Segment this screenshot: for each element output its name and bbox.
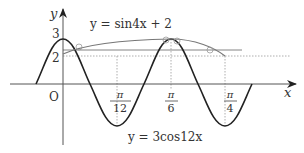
cosine-curve-label: y = 3cos12x bbox=[127, 130, 202, 144]
sine-curve bbox=[63, 39, 225, 56]
svg-text:4: 4 bbox=[227, 102, 234, 115]
x-tick-pi-6: π 6 bbox=[165, 89, 178, 115]
svg-text:π: π bbox=[167, 89, 175, 100]
origin-label: O bbox=[49, 90, 59, 104]
y-tick-2: 2 bbox=[52, 51, 60, 65]
svg-text:6: 6 bbox=[168, 102, 175, 115]
x-tick-pi-12: π 12 bbox=[110, 89, 131, 115]
x-axis-label: x bbox=[284, 85, 292, 100]
dotted-guides bbox=[63, 39, 290, 126]
y-axis-label: y bbox=[49, 6, 58, 21]
svg-text:π: π bbox=[226, 89, 234, 100]
y-tick-3: 3 bbox=[52, 27, 60, 41]
function-graph: y x O 3 2 π 12 π 6 π 4 y = sin4x + 2 y =… bbox=[0, 0, 304, 153]
svg-text:12: 12 bbox=[113, 102, 127, 115]
x-tick-pi-4: π 4 bbox=[224, 89, 237, 115]
svg-text:π: π bbox=[116, 89, 124, 100]
sine-curve-label: y = sin4x + 2 bbox=[89, 17, 172, 31]
